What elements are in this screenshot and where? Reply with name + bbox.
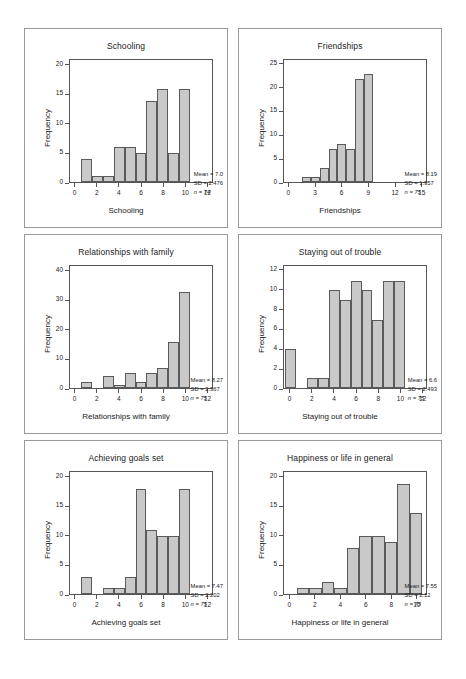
histogram-bar xyxy=(125,577,136,594)
y-tick-mark xyxy=(279,506,283,507)
x-axis-label: Schooling xyxy=(25,206,227,215)
stat-sd: SD = 2.12 xyxy=(405,591,437,600)
x-axis-label: Friendships xyxy=(239,206,441,215)
x-tick-label: 2 xyxy=(313,601,317,608)
histogram-bar xyxy=(340,300,351,388)
stats-annotation: Mean = 8.27SD = 2.367n = 75 xyxy=(191,376,223,403)
histogram-bar xyxy=(329,290,340,388)
x-tick-label: 8 xyxy=(161,189,165,196)
bar-series xyxy=(284,472,426,594)
histogram-bar xyxy=(372,320,383,388)
y-tick-mark xyxy=(279,349,283,350)
x-tick-mark xyxy=(141,595,142,599)
histogram-bar xyxy=(157,536,168,594)
x-tick-mark xyxy=(333,389,334,393)
histogram-bar xyxy=(285,349,296,388)
x-tick-mark xyxy=(391,595,392,599)
x-axis-label: Relationships with family xyxy=(25,412,227,421)
stat-mean: Mean = 7.0 xyxy=(194,170,223,179)
histogram-bar xyxy=(359,536,372,594)
x-tick-label: 10 xyxy=(397,395,404,402)
histogram-bar xyxy=(168,153,179,182)
y-tick-mark xyxy=(279,87,283,88)
histogram-bar xyxy=(297,588,310,594)
y-tick-mark xyxy=(279,183,283,184)
x-tick-mark xyxy=(368,183,369,187)
y-tick-label: 10 xyxy=(56,354,63,361)
x-tick-label: 6 xyxy=(354,395,358,402)
y-tick-mark xyxy=(279,289,283,290)
y-tick-mark xyxy=(65,389,69,390)
y-tick-mark xyxy=(65,595,69,596)
x-tick-label: 0 xyxy=(73,189,77,196)
y-tick-mark xyxy=(65,300,69,301)
histogram-bar xyxy=(397,484,410,594)
histogram-figure-page: SchoolingFrequencySchooling0510152002468… xyxy=(0,0,466,679)
y-tick-label: 10 xyxy=(270,531,277,538)
y-tick-label: 15 xyxy=(56,501,63,508)
x-tick-label: 6 xyxy=(139,395,143,402)
histogram-bar xyxy=(337,144,346,182)
x-tick-mark xyxy=(118,389,119,393)
x-tick-label: 0 xyxy=(73,601,77,608)
bar-series xyxy=(70,472,212,594)
y-tick-label: 2 xyxy=(273,364,277,371)
histogram-bar xyxy=(157,89,168,182)
y-tick-label: 0 xyxy=(59,178,63,185)
x-tick-mark xyxy=(395,183,396,187)
stat-n: n = 74 xyxy=(194,188,223,197)
y-tick-mark xyxy=(279,309,283,310)
x-tick-mark xyxy=(163,183,164,187)
x-tick-label: 2 xyxy=(95,395,99,402)
x-tick-label: 8 xyxy=(390,601,394,608)
bar-series xyxy=(70,266,212,388)
histogram-bar xyxy=(302,177,311,182)
plot-area xyxy=(283,59,427,183)
x-tick-label: 2 xyxy=(95,601,99,608)
histogram-bar xyxy=(351,281,362,388)
stat-mean: Mean = 6.6 xyxy=(408,376,437,385)
histogram-bar xyxy=(179,89,190,182)
y-tick-label: 25 xyxy=(270,59,277,66)
bar-series xyxy=(284,266,426,388)
chart-title: Happiness or life in general xyxy=(239,453,441,463)
stat-mean: Mean = 8.19 xyxy=(405,170,437,179)
x-tick-label: 0 xyxy=(287,189,291,196)
y-axis-label: Frequency xyxy=(257,315,266,353)
y-tick-label: 5 xyxy=(273,154,277,161)
chart-title: Achieving goals set xyxy=(25,453,227,463)
histogram-bar xyxy=(347,548,360,594)
x-tick-mark xyxy=(96,595,97,599)
stat-n: n = 75 xyxy=(405,600,437,609)
y-tick-mark xyxy=(65,123,69,124)
histogram-bar xyxy=(322,582,335,594)
stats-annotation: Mean = 7.47SD = 2.202n = 75 xyxy=(191,582,223,609)
x-tick-mark xyxy=(340,595,341,599)
y-tick-label: 0 xyxy=(273,384,277,391)
histogram-bar xyxy=(385,542,398,594)
x-tick-label: 9 xyxy=(367,189,371,196)
x-tick-label: 4 xyxy=(117,395,121,402)
x-tick-mark xyxy=(141,183,142,187)
histogram-bar xyxy=(179,489,190,594)
histogram-bar xyxy=(362,290,373,388)
x-tick-label: 4 xyxy=(117,189,121,196)
x-tick-mark xyxy=(289,389,290,393)
x-tick-label: 10 xyxy=(182,189,189,196)
chart-title: Relationships with family xyxy=(25,247,227,257)
chart-panel-friendships: FriendshipsFrequencyFriendships051015202… xyxy=(238,28,442,228)
y-tick-label: 6 xyxy=(273,324,277,331)
x-tick-mark xyxy=(314,595,315,599)
y-tick-mark xyxy=(65,476,69,477)
histogram-bar xyxy=(372,536,385,594)
histogram-bar xyxy=(364,74,373,182)
x-tick-mark xyxy=(365,595,366,599)
x-tick-label: 8 xyxy=(376,395,380,402)
x-axis-label: Happiness or life in general xyxy=(239,618,441,627)
x-tick-label: 10 xyxy=(182,395,189,402)
histogram-bar xyxy=(146,101,157,182)
y-axis-label: Frequency xyxy=(43,521,52,559)
bar-series xyxy=(284,60,426,182)
chart-panel-schooling: SchoolingFrequencySchooling0510152002468… xyxy=(24,28,228,228)
histogram-bar xyxy=(334,588,347,594)
